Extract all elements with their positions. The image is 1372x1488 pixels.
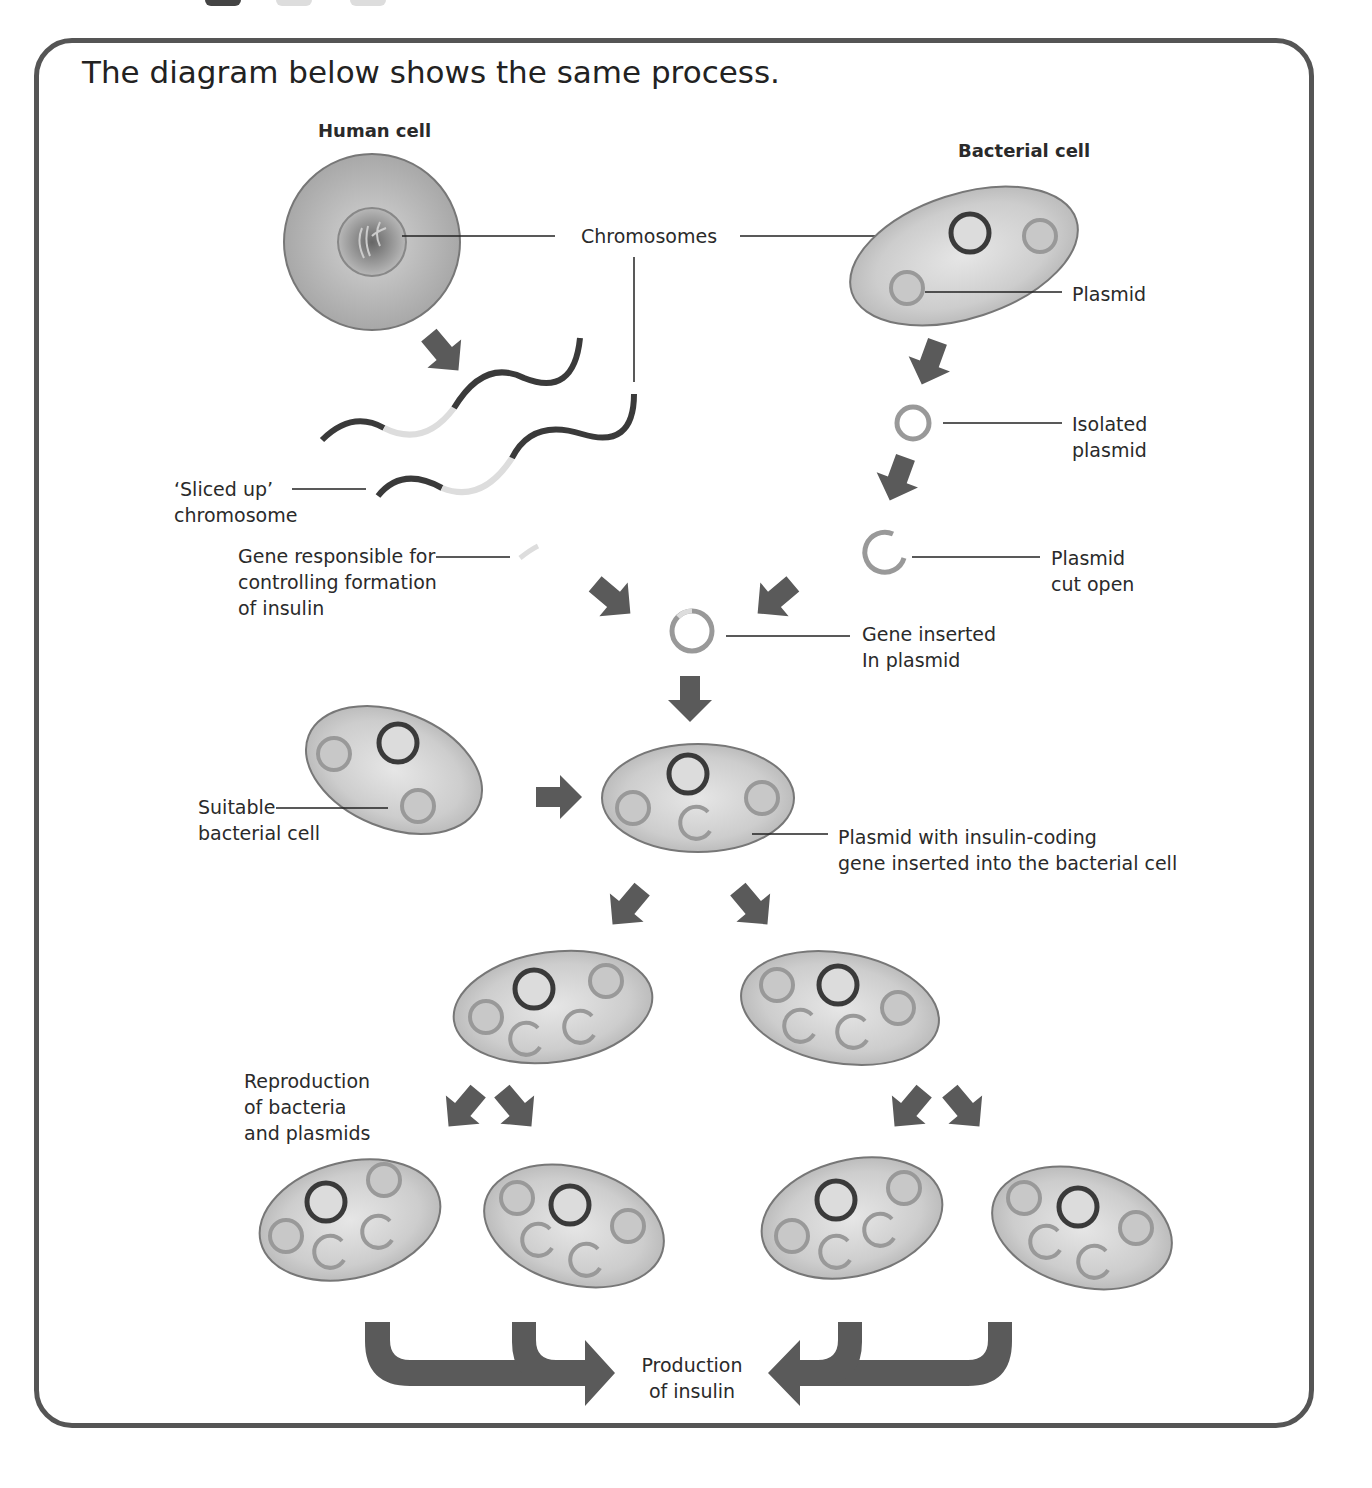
- human-cell-label: Human cell: [318, 118, 431, 144]
- isolated-plasmid: [897, 407, 929, 439]
- gene-inserted-plasmid: [672, 611, 712, 651]
- bacterial-cell-gen2-left: [446, 939, 659, 1076]
- arrow-icon: [485, 1077, 548, 1141]
- gene-label: Gene responsible for controlling formati…: [238, 543, 437, 621]
- arrow-icon: [878, 1077, 941, 1141]
- plasmid-with-gene-label: Plasmid with insulin-coding gene inserte…: [838, 824, 1177, 876]
- bacterial-cell-gen3-4: [978, 1147, 1187, 1309]
- arrow-icon: [743, 567, 807, 630]
- plasmid-label: Plasmid: [1072, 281, 1146, 307]
- modified-bacterial-cell: [602, 744, 794, 852]
- arrow-icon: [432, 1077, 495, 1141]
- arrow-icon: [581, 567, 645, 630]
- production-arrow-right: [768, 1322, 1012, 1406]
- arrow-icon: [596, 875, 659, 939]
- isolated-plasmid-label: Isolated plasmid: [1072, 411, 1147, 463]
- bacterial-cell-gen2-right: [732, 936, 948, 1079]
- suitable-bacterial-cell-label: Suitable bacterial cell: [198, 794, 320, 846]
- arrow-icon: [721, 875, 784, 939]
- sliced-chromosome-label: ‘Sliced up’ chromosome: [174, 476, 297, 528]
- cut-plasmid: [865, 532, 904, 572]
- gene-inserted-label: Gene inserted In plasmid: [862, 621, 996, 673]
- bacterial-cell: [833, 161, 1096, 352]
- human-cell: [284, 154, 460, 330]
- bacterial-cell-label: Bacterial cell: [958, 138, 1090, 164]
- bacterial-cell-gen3-2: [470, 1145, 679, 1307]
- arrow-icon: [901, 334, 958, 392]
- production-arrow-left: [365, 1322, 615, 1406]
- arrow-icon: [869, 450, 926, 508]
- plasmid-cut-open-label: Plasmid cut open: [1051, 545, 1134, 597]
- arrow-icon: [933, 1077, 996, 1141]
- production-of-insulin-label: Production of insulin: [640, 1352, 744, 1404]
- reproduction-label: Reproduction of bacteria and plasmids: [244, 1068, 370, 1146]
- bacterial-cell-gen3-3: [749, 1139, 956, 1296]
- bacterial-cell-gen3-1: [247, 1141, 454, 1298]
- arrow-icon: [536, 775, 582, 819]
- sliced-chromosome: [322, 338, 634, 558]
- chromosomes-label: Chromosomes: [581, 223, 717, 249]
- arrow-icon: [412, 321, 475, 385]
- arrow-icon: [668, 676, 712, 722]
